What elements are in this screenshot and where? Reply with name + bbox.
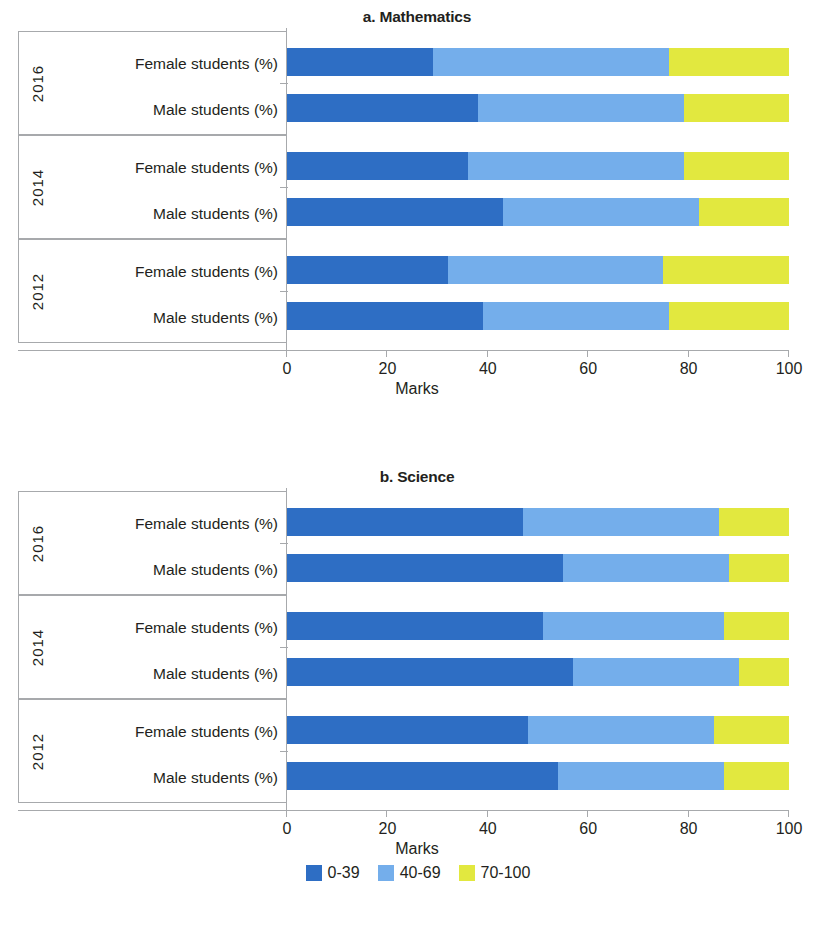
stacked-bar	[287, 658, 789, 686]
chart-title-mathematics: a. Mathematics	[20, 0, 814, 28]
bar-segment-40-69	[573, 658, 739, 686]
x-axis-tick	[688, 810, 689, 817]
bar-segment-0-39	[287, 302, 483, 330]
x-axis-tick-label: 20	[378, 360, 396, 378]
stacked-bar	[287, 256, 789, 284]
bar-segment-70-100	[724, 762, 789, 790]
x-axis-title-science: Marks	[20, 840, 814, 858]
legend-label: 0-39	[328, 864, 360, 882]
bar-segment-70-100	[684, 152, 789, 180]
bar-segment-70-100	[714, 716, 789, 744]
year-axis-label-text: 2012	[30, 272, 47, 309]
year-axis-label-text: 2014	[30, 628, 47, 665]
chart-legend: 0-3940-6970-100	[22, 864, 814, 882]
x-axis-line	[286, 350, 789, 351]
bar-segment-0-39	[287, 256, 448, 284]
bar-segment-40-69	[543, 612, 724, 640]
bar-segment-70-100	[684, 94, 789, 122]
bar-segment-40-69	[468, 152, 684, 180]
x-axis-tick-label: 60	[579, 820, 597, 838]
x-axis-tick	[386, 350, 387, 357]
x-axis-tick	[286, 350, 287, 357]
bar-segment-0-39	[287, 152, 468, 180]
series-axis-label: Female students (%)	[135, 250, 278, 294]
year-axis-label-text: 2016	[30, 64, 47, 101]
bar-segment-70-100	[699, 198, 789, 226]
bar-segment-0-39	[287, 716, 528, 744]
series-axis-label: Male students (%)	[153, 296, 278, 340]
stacked-bar	[287, 508, 789, 536]
series-axis-label: Male students (%)	[153, 192, 278, 236]
bar-segment-0-39	[287, 198, 503, 226]
x-axis-tick-label: 60	[579, 360, 597, 378]
legend-label: 70-100	[481, 864, 531, 882]
bar-segment-0-39	[287, 658, 573, 686]
stacked-bar	[287, 554, 789, 582]
year-group-box: 2016Female students (%)Male students (%)	[18, 31, 286, 135]
bar-segment-40-69	[478, 94, 684, 122]
legend-swatch-icon	[306, 865, 322, 881]
bar-segment-0-39	[287, 94, 478, 122]
x-axis-tick	[587, 810, 588, 817]
year-axis-label: 2016	[21, 492, 55, 594]
year-axis-label-text: 2016	[30, 524, 47, 561]
bar-segment-40-69	[448, 256, 664, 284]
year-axis-label-text: 2012	[30, 732, 47, 769]
bar-segment-0-39	[287, 508, 523, 536]
x-axis-tick	[487, 350, 488, 357]
x-axis-line-left	[18, 350, 287, 351]
chart-panel-mathematics: a. Mathematics 2016Female students (%)Ma…	[0, 0, 814, 460]
bar-segment-40-69	[528, 716, 714, 744]
x-axis-tick-label: 80	[680, 820, 698, 838]
year-axis-label: 2012	[21, 240, 55, 342]
legend-swatch-icon	[459, 865, 475, 881]
legend-item: 0-39	[306, 864, 360, 882]
bar-segment-40-69	[563, 554, 729, 582]
bar-segment-70-100	[719, 508, 789, 536]
series-axis-label: Female students (%)	[135, 502, 278, 546]
x-axis-tick-label: 0	[283, 820, 292, 838]
legend-swatch-icon	[378, 865, 394, 881]
bar-segment-70-100	[669, 302, 789, 330]
x-axis-tick-label: 100	[776, 360, 803, 378]
x-axis-tick	[386, 810, 387, 817]
chart-panel-science: b. Science 2016Female students (%)Male s…	[0, 460, 814, 932]
chart-title-science: b. Science	[20, 460, 814, 488]
year-axis-label: 2012	[21, 700, 55, 802]
x-axis-tick	[788, 810, 789, 817]
bar-segment-40-69	[433, 48, 669, 76]
series-axis-label: Male students (%)	[153, 756, 278, 800]
bar-segment-70-100	[669, 48, 789, 76]
series-axis-label: Female students (%)	[135, 710, 278, 754]
stacked-bar	[287, 48, 789, 76]
bar-segment-40-69	[558, 762, 724, 790]
series-axis-label: Female students (%)	[135, 42, 278, 86]
x-axis-tick	[286, 810, 287, 817]
x-axis-tick-label: 40	[479, 820, 497, 838]
stacked-bar	[287, 716, 789, 744]
plot-area-science: 2016Female students (%)Male students (%)…	[18, 488, 796, 810]
year-axis-label-text: 2014	[30, 168, 47, 205]
stacked-bar	[287, 762, 789, 790]
bar-segment-70-100	[739, 658, 789, 686]
x-axis-tick	[487, 810, 488, 817]
stacked-bar	[287, 612, 789, 640]
bar-segment-40-69	[503, 198, 699, 226]
x-axis-tick-label: 40	[479, 360, 497, 378]
series-axis-label: Male students (%)	[153, 88, 278, 132]
x-axis-tick-label: 20	[378, 820, 396, 838]
bar-segment-40-69	[483, 302, 669, 330]
legend-label: 40-69	[400, 864, 441, 882]
x-axis-title-mathematics: Marks	[20, 380, 814, 398]
series-axis-label: Female students (%)	[135, 146, 278, 190]
x-axis-line	[286, 810, 789, 811]
x-axis-tick-label: 100	[776, 820, 803, 838]
year-group-box: 2014Female students (%)Male students (%)	[18, 135, 286, 239]
year-group-box: 2012Female students (%)Male students (%)	[18, 239, 286, 343]
bar-segment-70-100	[729, 554, 789, 582]
x-axis-tick	[788, 350, 789, 357]
year-axis-label: 2014	[21, 596, 55, 698]
bar-segment-0-39	[287, 612, 543, 640]
year-axis-label: 2014	[21, 136, 55, 238]
legend-item: 40-69	[378, 864, 441, 882]
